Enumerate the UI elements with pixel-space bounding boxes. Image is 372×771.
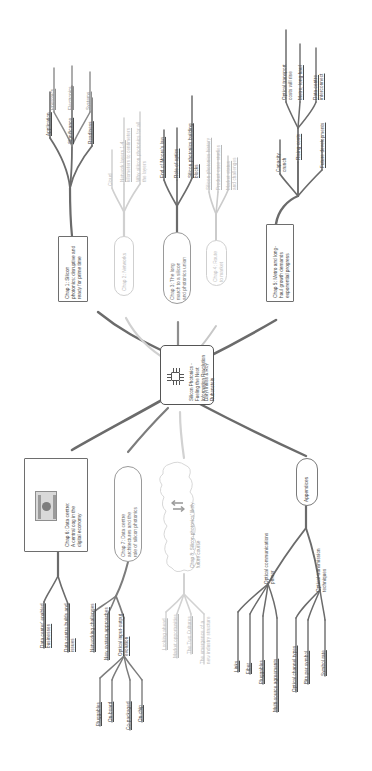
leaf-label-emergence-new-industry-structure: The emergence of a new industry structur…: [200, 606, 212, 664]
wire-chap5-b1: [280, 174, 298, 196]
leaf-label-product-case-studies: Product case studies: [216, 132, 222, 190]
wire-chap4-b1: [209, 192, 216, 214]
leaf-label-bits-per-symbol: Bits per symbol: [304, 636, 310, 684]
wire-app-b6: [308, 590, 320, 620]
wire-chap7-b5: [112, 656, 124, 680]
leaf-label-optical-input-output-evolution: Optical input-output evolution: [118, 600, 130, 656]
chapter-label-chap4: Chap 4: Route to market: [213, 240, 225, 282]
leaf-label-rising-costs: Rising costs: [296, 120, 302, 160]
wire-chap1-b1: [50, 138, 70, 188]
chapter-node-chap5[interactable]: Chap 5: Metro and long- haul growth dema…: [266, 224, 294, 302]
leaf-label-electronics: Electronics: [68, 64, 74, 110]
leaf-label-metro-long-haul: Metro, long haul: [298, 50, 304, 100]
leaf-label-cloud: Cloud: [108, 142, 114, 186]
chapter-label-chap8: Chap 8: Silicon photonics' likely future…: [190, 464, 202, 568]
wire-central-chap6: [72, 400, 162, 450]
leaf-label-role-of-optics: Role of optics: [174, 122, 180, 178]
leaf-label-network-layers: Network layers 1-4: kilometers to centim…: [120, 114, 132, 182]
leaf-label-data-center-enabled-businesses: Data center' enabled businesses: [40, 588, 52, 648]
wire-chap2-b3: [124, 184, 140, 212]
wire-central-appendices: [200, 404, 306, 456]
leaf-label-market-opportunities: Market opportunities: [173, 602, 179, 658]
wire-central-chap1: [98, 312, 165, 352]
leaf-label-data-centre-interconnect: Data centre interconnect: [313, 50, 325, 100]
chapter-node-appendices[interactable]: Appendices: [296, 458, 318, 506]
chapter-node-chap1[interactable]: Chap 1: Silicon photonics: disruptive an…: [58, 236, 88, 302]
leaf-label-optical-channel-types: Optical channel types: [292, 636, 298, 692]
wire-chap3-b3: [177, 178, 192, 206]
mindmap-canvas: Silicon Photonics - Fueling the Next Inf…: [0, 0, 372, 771]
leaf-label-silicon-photonics-blocks: Silicon photonics building blocks: [188, 102, 200, 178]
leaf-label-two-cultures: The Two Cultures: [187, 602, 193, 654]
exchange-arrows-icon: [170, 498, 186, 514]
leaf-label-new-system-approaches: New system approaches: [104, 596, 110, 660]
data-centre-photo: [35, 491, 57, 521]
chapter-label-appendices: Appendices: [304, 458, 310, 502]
leaf-label-optical-communications-primer: Optical communications primer: [264, 524, 276, 584]
wire-app-b7: [320, 590, 325, 620]
leaf-label-symbol-rate: Symbol rate: [321, 632, 327, 676]
leaf-label-links: Links: [234, 632, 240, 672]
leaf-label-looking-ahead: Looking ahead: [162, 602, 168, 650]
chapter-label-chap7: Chap 7: Data centre architectures and th…: [121, 467, 140, 557]
leaf-label-photonics: Photonics: [50, 64, 56, 110]
chapter-label-chap1: Chap 1: Silicon photonics: disruptive an…: [65, 239, 84, 299]
chapter-node-chap4[interactable]: Chap 4: Route to market: [206, 240, 227, 286]
leaf-label-capacity-crunch: Capacity crunch: [276, 134, 288, 172]
leaf-label-market-status: Market status and challenges: [226, 144, 238, 190]
wire-chap1-b3: [70, 146, 92, 188]
leaf-label-end-of-moores-law: End of Moore's law: [160, 118, 166, 178]
leaf-label-silicon-photonics-history: Silicon photonics history: [206, 128, 212, 190]
leaf-label-fiber: Fiber: [246, 634, 252, 674]
leaf-label-on-chip: On-chip: [138, 682, 144, 722]
leaf-label-on-board: On-board: [108, 678, 114, 722]
chapter-node-chap7[interactable]: Chap 7: Data centre architectures and th…: [114, 466, 142, 562]
wire-chap5-b3: [298, 170, 322, 196]
wire-chap7-trunk: [116, 562, 128, 596]
chapter-label-chap5: Chap 5: Metro and long- haul growth dema…: [273, 226, 292, 298]
chapter-node-chap3[interactable]: Chap 3: The long march to a silicon and …: [163, 232, 191, 304]
chapter-label-chap6: Chap 6: Data centre: A central cog in th…: [65, 461, 84, 547]
leaf-label-optical-transmission-techniques: Optical transmission techniques: [316, 534, 328, 592]
chapter-label-chap2: Chap 2: Networks: [122, 239, 128, 291]
chapter-node-chap6[interactable]: Chap 6: Data centre: A central cog in th…: [24, 458, 88, 552]
wire-app-b5: [296, 590, 320, 618]
wire-chap2-b1: [112, 188, 124, 212]
chip-icon: [167, 368, 184, 385]
leaf-label-pluggables-chap7: Pluggables: [96, 682, 102, 726]
leaf-label-networking-challenges: Networking challenges: [90, 592, 96, 652]
leaf-label-future-developments: Future developments: [320, 112, 326, 168]
leaf-label-pluggables-appendix: Pluggables: [259, 640, 265, 684]
wire-chap5-trunk: [276, 196, 298, 224]
wire-chap3-b1: [164, 180, 177, 206]
leaf-label-multi-source-agreements: Multi-source agreements: [273, 648, 279, 712]
leaf-label-why-silicon-photonics: Why silicon photonics for all the layers: [136, 110, 148, 182]
leaf-label-optical-transport-costs: Optical transport costs will rise: [282, 42, 294, 100]
central-topic-node[interactable]: Silicon Photonics - Fueling the Next Inf…: [160, 345, 214, 405]
wire-chap1-trunk: [70, 188, 72, 236]
wire-central-chap8: [180, 412, 184, 458]
leaf-label-co-packaged: Co-packaged: [126, 682, 132, 730]
chapter-node-chap2[interactable]: Chap 2: Networks: [114, 236, 134, 296]
wire-app-b4: [268, 584, 277, 618]
central-topic-authors: Daryl Inniss & Roy Rubenstein: [204, 353, 216, 401]
leaf-label-data-centre-builds: Data centre builds and issues: [64, 592, 76, 652]
chapter-node-chap8[interactable]: Chap 8: Silicon photonics' likely future…: [158, 458, 200, 576]
leaf-label-systems: Systems: [86, 64, 92, 110]
chapter-label-chap3: Chap 3: The long march to a silicon and …: [170, 234, 189, 300]
